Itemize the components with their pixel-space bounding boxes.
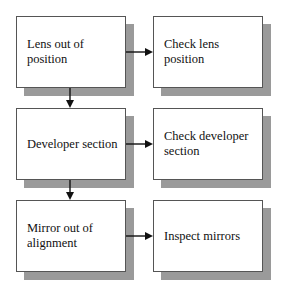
- arrow-right-icon: [126, 232, 153, 240]
- arrow-down-icon: [66, 180, 74, 200]
- arrow-right-icon: [126, 140, 153, 148]
- arrow-down-icon: [66, 88, 74, 108]
- arrow-right-icon: [126, 48, 153, 56]
- connector-arrows: [0, 0, 285, 294]
